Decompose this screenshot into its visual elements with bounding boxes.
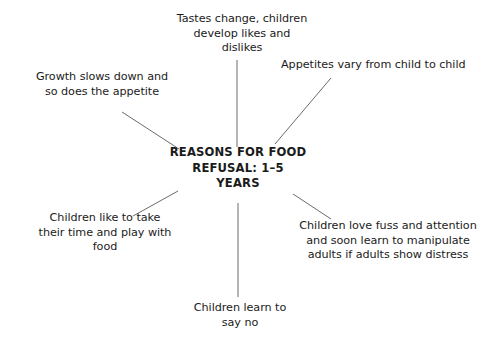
connector-lower-right-line: [293, 194, 331, 219]
branch-label-fuss-and-attention: Children love fuss and attention and soo…: [285, 219, 491, 263]
branch-label-growth-slows: Growth slows down and so does the appeti…: [14, 70, 190, 99]
branch-label-tastes-change: Tastes change, children develop likes an…: [166, 12, 318, 56]
connector-upper-left-line: [122, 112, 179, 149]
branch-label-take-their-time: Children like to take their time and pla…: [25, 211, 185, 255]
connector-upper-right-line: [275, 78, 331, 144]
center-node-label: REASONS FOR FOOD REFUSAL: 1–5 YEARS: [162, 145, 314, 192]
food-refusal-mind-map: Tastes change, children develop likes an…: [0, 0, 494, 354]
branch-label-learn-to-say-no: Children learn to say no: [181, 301, 299, 330]
branch-label-appetites-vary: Appetites vary from child to child: [281, 58, 491, 73]
